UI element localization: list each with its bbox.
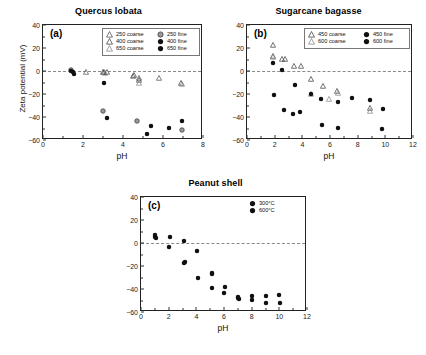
y-tick-mark bbox=[141, 289, 144, 290]
legend-item: 650 fine bbox=[157, 45, 196, 52]
panel-b-legend: 450 coarse450 fine600 coarse600 fine bbox=[304, 28, 410, 49]
x-tick-mark bbox=[302, 135, 303, 138]
legend-label: 600 coarse bbox=[318, 38, 346, 45]
x-tick-label: 2 bbox=[273, 141, 277, 148]
y-minor-tick-mark bbox=[247, 36, 249, 37]
legend-item: 300°C bbox=[249, 200, 301, 207]
legend-label: 600 fine bbox=[373, 38, 393, 45]
figure-root: Quercus lobata −60−40−200204002468 Zeta … bbox=[0, 0, 426, 355]
y-minor-tick-mark bbox=[43, 82, 45, 83]
panel-c-legend: 300°C600°C bbox=[246, 198, 304, 217]
data-point-triangle bbox=[156, 67, 162, 85]
x-minor-tick-mark bbox=[210, 308, 211, 310]
y-tick-mark bbox=[43, 117, 46, 118]
x-minor-tick-mark bbox=[343, 136, 344, 138]
x-tick-label: 2 bbox=[81, 141, 85, 148]
marker-triangle-open-icon bbox=[106, 31, 113, 38]
legend-label: 600°C bbox=[259, 207, 275, 214]
y-tick-label: −20 bbox=[28, 91, 40, 98]
data-point-triangle bbox=[291, 55, 297, 73]
data-point-circle bbox=[279, 59, 285, 77]
x-tick-mark bbox=[274, 135, 275, 138]
data-point-circle bbox=[263, 292, 269, 310]
data-point-circle bbox=[209, 263, 215, 281]
y-minor-tick-mark bbox=[43, 36, 45, 37]
data-point-circle bbox=[181, 230, 187, 248]
legend-label: 250 fine bbox=[167, 31, 187, 38]
y-minor-tick-mark bbox=[247, 82, 249, 83]
y-tick-label: 0 bbox=[36, 68, 40, 75]
x-tick-label: 6 bbox=[222, 313, 226, 320]
x-tick-label: 4 bbox=[300, 141, 304, 148]
x-minor-tick-mark bbox=[293, 308, 294, 310]
data-point-triangle bbox=[326, 88, 332, 106]
x-tick-mark bbox=[357, 135, 358, 138]
legend-item: 400 fine bbox=[157, 38, 196, 45]
x-minor-tick-mark bbox=[399, 136, 400, 138]
y-tick-label: −20 bbox=[126, 263, 138, 270]
x-tick-mark bbox=[123, 135, 124, 138]
data-point-circle bbox=[152, 226, 158, 244]
panel-quercus-lobata: Quercus lobata −60−40−200204002468 Zeta … bbox=[6, 6, 211, 171]
x-minor-tick-mark bbox=[288, 136, 289, 138]
panel-a-tag: (a) bbox=[50, 28, 62, 39]
y-minor-tick-mark bbox=[43, 59, 45, 60]
legend-item: 250 fine bbox=[157, 31, 196, 38]
x-tick-mark bbox=[385, 135, 386, 138]
panel-c-tag: (c) bbox=[148, 200, 160, 211]
data-point-circle bbox=[166, 236, 172, 254]
x-tick-mark bbox=[251, 307, 252, 310]
y-tick-label: 0 bbox=[240, 68, 244, 75]
y-minor-tick-mark bbox=[43, 105, 45, 106]
data-point-circle bbox=[270, 52, 276, 70]
y-minor-tick-mark bbox=[247, 105, 249, 106]
x-tick-mark bbox=[247, 135, 248, 138]
data-point-circle bbox=[179, 110, 185, 128]
data-point-circle bbox=[290, 103, 296, 121]
panel-a-title: Quercus lobata bbox=[6, 6, 211, 16]
data-point-circle bbox=[166, 117, 172, 135]
marker-triangle-open-icon bbox=[308, 31, 315, 38]
x-tick-label: 6 bbox=[328, 141, 332, 148]
y-tick-mark bbox=[247, 25, 250, 26]
y-tick-mark bbox=[43, 48, 46, 49]
legend-label: 450 fine bbox=[373, 31, 393, 38]
y-tick-mark bbox=[247, 48, 250, 49]
panel-c-x-axis-label: pH bbox=[140, 323, 306, 333]
x-tick-mark bbox=[224, 307, 225, 310]
y-tick-mark bbox=[247, 117, 250, 118]
zero-reference-line bbox=[247, 71, 411, 72]
x-minor-tick-mark bbox=[237, 308, 238, 310]
panel-sugarcane-bagasse: Sugarcane bagasse −60−40−200204002468101… bbox=[216, 6, 421, 171]
x-tick-mark bbox=[196, 307, 197, 310]
x-tick-label: 0 bbox=[41, 141, 45, 148]
data-point-circle bbox=[319, 114, 325, 132]
legend-label: 650 fine bbox=[167, 45, 187, 52]
panel-b-title: Sugarcane bagasse bbox=[216, 6, 421, 16]
x-tick-label: 4 bbox=[194, 313, 198, 320]
x-tick-label: 8 bbox=[201, 141, 205, 148]
marker-triangle-open-icon bbox=[308, 38, 315, 45]
data-point-circle bbox=[349, 87, 355, 105]
data-point-circle bbox=[281, 99, 287, 117]
y-tick-mark bbox=[43, 71, 46, 72]
marker-circle-gray-icon bbox=[157, 31, 164, 38]
y-tick-mark bbox=[141, 220, 144, 221]
y-tick-mark bbox=[141, 197, 144, 198]
data-point-circle bbox=[221, 282, 227, 300]
y-tick-mark bbox=[141, 243, 144, 244]
panel-a-legend: 250 coarse250 fine400 coarse400 fine650 … bbox=[102, 28, 200, 56]
legend-label: 400 coarse bbox=[116, 38, 144, 45]
y-minor-tick-mark bbox=[43, 128, 45, 129]
y-minor-tick-mark bbox=[247, 128, 249, 129]
x-tick-mark bbox=[203, 135, 204, 138]
y-tick-label: −40 bbox=[28, 114, 40, 121]
data-point-triangle bbox=[179, 73, 185, 91]
panel-a-x-axis-label: pH bbox=[42, 151, 202, 161]
x-tick-label: 12 bbox=[409, 141, 417, 148]
data-point-circle bbox=[194, 240, 200, 258]
data-point-circle bbox=[335, 117, 341, 135]
marker-triangle-open-icon bbox=[106, 45, 113, 52]
legend-item: 600 fine bbox=[363, 38, 406, 45]
marker-triangle-open-icon bbox=[106, 38, 113, 45]
